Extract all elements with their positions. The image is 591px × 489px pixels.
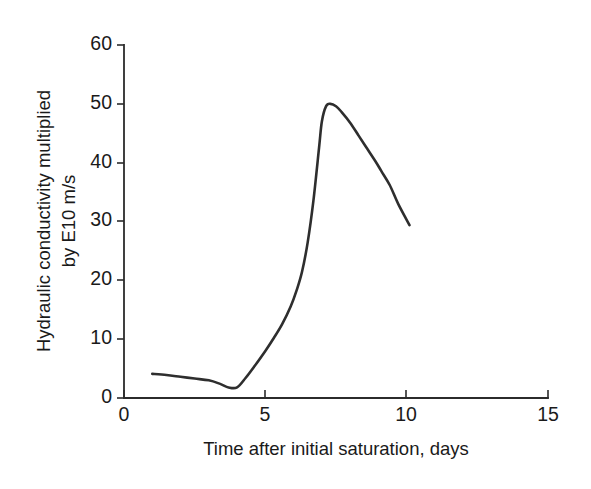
y-tick-label-40: 40 [90,150,112,172]
x-axis-ticks [124,390,548,398]
data-series-line [152,104,409,388]
y-tick-label-50: 50 [90,91,112,113]
x-tick-label-5: 5 [260,403,271,425]
x-tick-label-0: 0 [119,403,130,425]
y-tick-label-10: 10 [90,326,112,348]
x-tick-label-10: 10 [395,403,417,425]
y-axis-title-line1: Hydraulic conductivity multiplied [33,90,54,352]
y-tick-label-20: 20 [90,267,112,289]
line-chart: Hydraulic conductivity multiplied by E10… [0,0,591,489]
chart-figure: Hydraulic conductivity multiplied by E10… [0,0,591,489]
y-tick-label-30: 30 [90,208,112,230]
y-axis-title-line2: by E10 m/s [58,175,79,268]
y-tick-label-60: 60 [90,32,112,54]
y-tick-label-0: 0 [101,385,112,407]
x-axis-tick-labels: 0 5 10 15 [119,403,559,425]
y-axis-ticks [117,45,124,398]
x-axis-title: Time after initial saturation, days [203,438,469,459]
y-axis-tick-labels: 0 10 20 30 40 50 60 [90,32,112,407]
x-tick-label-15: 15 [537,403,559,425]
y-axis-title: Hydraulic conductivity multiplied by E10… [33,90,79,352]
